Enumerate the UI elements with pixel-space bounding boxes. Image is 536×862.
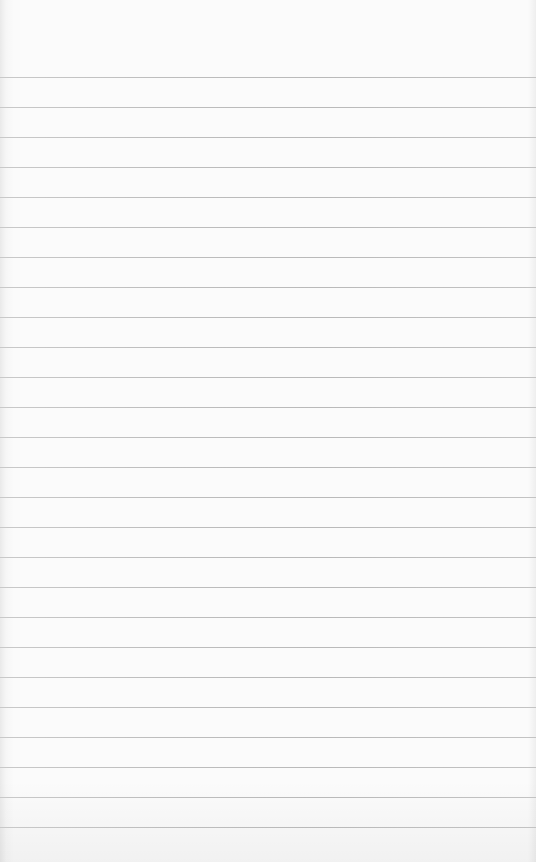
ruled-line (0, 617, 536, 618)
ruled-line (0, 287, 536, 288)
ruled-line (0, 77, 536, 78)
ruled-line (0, 257, 536, 258)
ruled-line (0, 797, 536, 798)
ruled-line (0, 707, 536, 708)
ruled-line (0, 737, 536, 738)
ruled-line (0, 107, 536, 108)
ruled-line (0, 647, 536, 648)
ruled-line (0, 437, 536, 438)
ruled-line (0, 767, 536, 768)
ruled-line (0, 497, 536, 498)
ruled-line (0, 677, 536, 678)
ruled-line (0, 317, 536, 318)
ruled-line (0, 587, 536, 588)
ruled-line (0, 167, 536, 168)
ruled-line (0, 137, 536, 138)
ruled-line (0, 227, 536, 228)
ruled-line (0, 377, 536, 378)
ruled-line (0, 197, 536, 198)
ruled-line (0, 407, 536, 408)
ruled-line (0, 467, 536, 468)
ruled-line (0, 527, 536, 528)
ruled-line (0, 557, 536, 558)
ruled-line (0, 347, 536, 348)
lined-paper (0, 0, 536, 862)
ruled-line (0, 827, 536, 828)
